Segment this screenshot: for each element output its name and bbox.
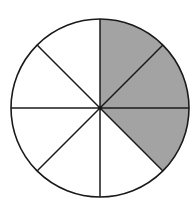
fraction-circle-diagram xyxy=(0,0,196,213)
center-point xyxy=(98,106,102,110)
